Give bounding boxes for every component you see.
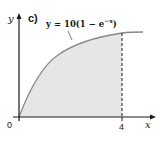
y-axis-arrow-icon: [17, 13, 22, 19]
x-axis-label: x: [145, 119, 151, 130]
x-axis-arrow-icon: [150, 115, 156, 120]
equation-leader-line: [68, 31, 72, 40]
x-tick-label-4: 4: [119, 122, 124, 132]
panel-label: c): [28, 12, 38, 24]
equation-label: y = 10(1 − e−x): [45, 17, 117, 29]
y-axis-label: y: [7, 13, 14, 24]
shaded-area: [19, 33, 122, 117]
area-chart: y c) y = 10(1 − e−x) 0 4 x: [0, 0, 162, 143]
origin-label: 0: [7, 120, 12, 130]
